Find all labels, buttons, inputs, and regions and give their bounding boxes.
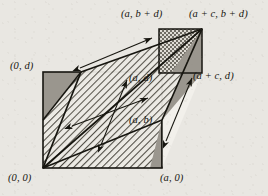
label-a-b: (a, b) bbox=[129, 114, 152, 125]
label-apc-b-plus-d: (a + c, b + d) bbox=[189, 8, 248, 19]
label-a-b-plus-d: (a, b + d) bbox=[121, 8, 162, 19]
label-a-zero: (a, 0) bbox=[160, 172, 183, 183]
label-a-d: (a, d) bbox=[129, 72, 152, 83]
label-apc-d: (a + c, d) bbox=[193, 70, 234, 81]
geometry-diagram-svg bbox=[0, 0, 268, 196]
label-origin: (0, 0) bbox=[8, 172, 31, 183]
figure-canvas: (a, b + d) (a + c, b + d) (0, d) (a, d) … bbox=[0, 0, 268, 196]
label-zero-d: (0, d) bbox=[10, 60, 33, 71]
